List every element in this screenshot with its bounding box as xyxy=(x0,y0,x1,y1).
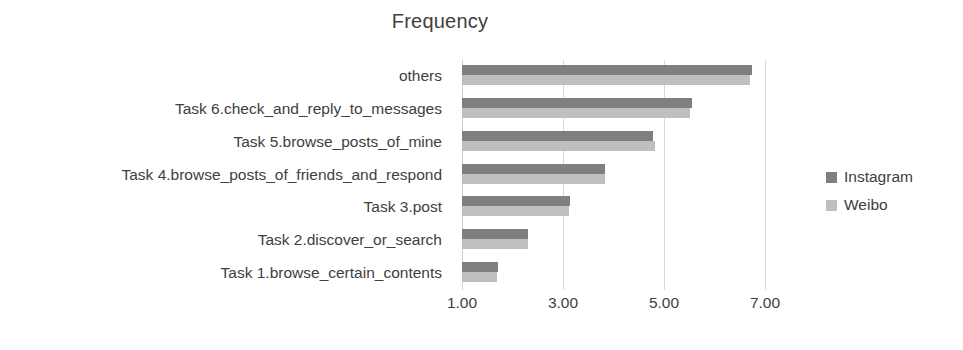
legend-label: Instagram xyxy=(844,168,913,186)
x-axis-tick-label: 3.00 xyxy=(548,294,578,312)
bar-instagram xyxy=(462,131,653,141)
bar-instagram xyxy=(462,229,528,239)
y-axis-label: Task 3.post xyxy=(364,191,442,224)
bar-instagram xyxy=(462,196,570,206)
bar-weibo xyxy=(462,75,750,85)
legend-item: Instagram xyxy=(826,163,956,191)
bar-weibo xyxy=(462,108,690,118)
bar-weibo xyxy=(462,206,569,216)
bar-group xyxy=(462,60,780,93)
y-axis-label: Task 2.discover_or_search xyxy=(258,224,442,257)
bar-instagram xyxy=(462,164,605,174)
y-axis-label: others xyxy=(399,60,442,93)
legend-swatch-icon xyxy=(826,200,837,211)
frequency-bar-chart: Frequency Task 1.browse_certain_contents… xyxy=(0,0,963,350)
bar-weibo xyxy=(462,239,528,249)
y-axis-label: Task 5.browse_posts_of_mine xyxy=(233,126,442,159)
chart-title: Frequency xyxy=(0,10,880,33)
y-axis-label: Task 1.browse_certain_contents xyxy=(221,257,442,290)
bar-series-group xyxy=(462,60,780,290)
bar-instagram xyxy=(462,262,498,272)
y-axis-label: Task 6.check_and_reply_to_messages xyxy=(175,93,442,126)
bar-group xyxy=(462,224,780,257)
legend-label: Weibo xyxy=(844,196,888,214)
y-axis-label: Task 4.browse_posts_of_friends_and_respo… xyxy=(121,159,442,192)
legend-swatch-icon xyxy=(826,172,837,183)
y-axis-category-labels: Task 1.browse_certain_contentsTask 2.dis… xyxy=(0,60,452,290)
x-axis-tick-label: 5.00 xyxy=(649,294,679,312)
bar-instagram xyxy=(462,65,752,75)
bar-group xyxy=(462,159,780,192)
bar-group xyxy=(462,126,780,159)
x-axis-tick-label: 7.00 xyxy=(750,294,780,312)
bar-weibo xyxy=(462,272,497,282)
legend-item: Weibo xyxy=(826,191,956,219)
plot-area xyxy=(462,60,780,290)
bar-group xyxy=(462,93,780,126)
bar-group xyxy=(462,257,780,290)
bar-instagram xyxy=(462,98,692,108)
x-axis-tick-labels: 1.003.005.007.00 xyxy=(462,294,792,318)
bar-group xyxy=(462,191,780,224)
bar-weibo xyxy=(462,141,655,151)
chart-legend: InstagramWeibo xyxy=(826,163,956,219)
x-axis-tick-label: 1.00 xyxy=(447,294,477,312)
bar-weibo xyxy=(462,174,605,184)
